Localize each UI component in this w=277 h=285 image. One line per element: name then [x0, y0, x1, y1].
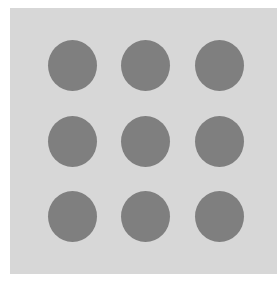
dot-r2-c2	[121, 116, 170, 167]
dot-r3-c2	[121, 191, 170, 242]
dot-r3-c3	[195, 191, 244, 242]
dot-r1-c3	[195, 40, 244, 91]
dot-r2-c3	[195, 116, 244, 167]
dot-r2-c1	[48, 116, 97, 167]
dot-r3-c1	[48, 191, 97, 242]
dot-r1-c1	[48, 40, 97, 91]
dot-r1-c2	[121, 40, 170, 91]
dot-grid-panel	[10, 8, 277, 274]
